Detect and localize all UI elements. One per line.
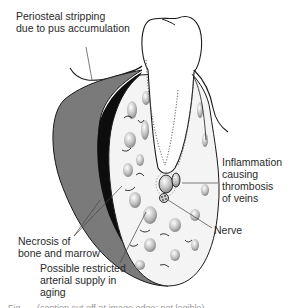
figure-caption: Fig. — (caption cut off at image edge; n… [8, 301, 292, 308]
vein [159, 175, 173, 193]
label-arterial-supply: Possible restricted arterial supply in a… [40, 262, 126, 298]
label-necrosis: Necrosis of bone and marrow [18, 235, 100, 259]
label-nerve: Nerve [214, 224, 242, 236]
label-periosteal-stripping: Periosteal stripping due to pus accumula… [16, 10, 130, 34]
nerve-bundle [160, 194, 169, 203]
label-inflammation: Inflammation causing thrombosis of veins [222, 156, 282, 204]
